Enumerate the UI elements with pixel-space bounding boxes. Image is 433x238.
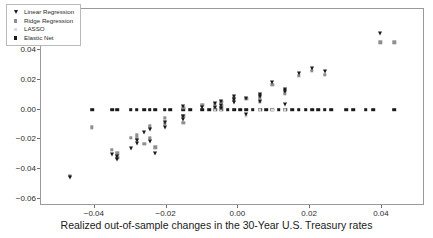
scatter-chart-figure: −0.06−0.04−0.020.000.020.040.06 −0.04−0.… — [0, 0, 433, 238]
legend-marker-icon — [11, 28, 20, 31]
y-tick-mark — [37, 168, 40, 169]
legend-label: Linear Regression — [24, 8, 74, 17]
legend: Linear RegressionRidge RegressionLASSOEl… — [6, 4, 81, 46]
legend-item[interactable]: LASSO — [11, 25, 74, 34]
x-tick-label: −0.04 — [84, 209, 104, 218]
chart-title — [0, 0, 433, 3]
y-tick-mark — [37, 198, 40, 199]
y-tick-label: −0.04 — [16, 163, 36, 172]
y-tick-mark — [37, 79, 40, 80]
y-tick-mark — [37, 49, 40, 50]
legend-marker-icon — [11, 10, 20, 14]
x-tick-mark — [166, 205, 167, 208]
x-tick-label: 0.02 — [301, 209, 317, 218]
y-tick-label: 0.00 — [20, 104, 36, 113]
legend-label: Elastic Net — [24, 34, 54, 43]
legend-item[interactable]: Ridge Regression — [11, 17, 74, 26]
x-tick-label: 0.04 — [373, 209, 389, 218]
x-tick-label: 0.00 — [230, 209, 246, 218]
legend-item[interactable]: Elastic Net — [11, 34, 74, 43]
y-tick-mark — [37, 109, 40, 110]
legend-marker-icon — [11, 19, 20, 22]
y-tick-label: −0.02 — [16, 134, 36, 143]
y-tick-label: 0.02 — [20, 75, 36, 84]
legend-item[interactable]: Linear Regression — [11, 8, 74, 17]
y-tick-label: −0.06 — [16, 193, 36, 202]
y-tick-mark — [37, 138, 40, 139]
x-tick-mark — [309, 205, 310, 208]
legend-label: Ridge Regression — [24, 17, 73, 26]
x-tick-mark — [237, 205, 238, 208]
x-tick-label: −0.02 — [155, 209, 175, 218]
legend-marker-icon — [11, 36, 20, 40]
x-tick-mark — [381, 205, 382, 208]
legend-label: LASSO — [24, 25, 45, 34]
x-axis-label: Realized out-of-sample changes in the 30… — [0, 219, 433, 231]
x-tick-mark — [94, 205, 95, 208]
